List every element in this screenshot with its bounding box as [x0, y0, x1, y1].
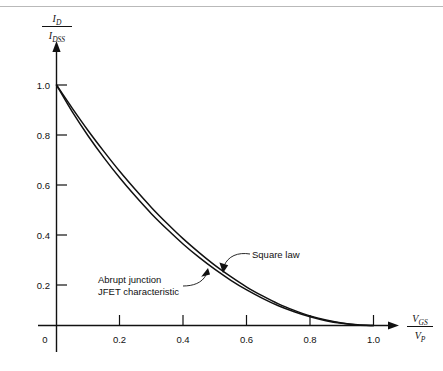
- square-law-label: Square law: [252, 249, 300, 260]
- x-tick-label-0.4: 0.4: [176, 334, 189, 345]
- chart-canvas: 1.0 0.8 0.6 0.4 0.2 0 0.2 0.4 0.6 0.8 1.…: [0, 0, 443, 371]
- square-law-arrowhead: [219, 263, 228, 273]
- square-law-leader-line: [224, 254, 250, 267]
- x-axis-label-numerator: VGS: [412, 313, 428, 327]
- y-tick-label-0.2: 0.2: [37, 280, 50, 291]
- annotation-square-law: Square law: [219, 249, 299, 273]
- y-axis-label-numerator: ID: [52, 13, 62, 27]
- x-tick-label-0.2: 0.2: [113, 334, 126, 345]
- x-tick-label-1.0: 1.0: [367, 334, 380, 345]
- x-axis-den-sub: P: [420, 335, 426, 344]
- y-axis-num-sub: D: [55, 18, 62, 27]
- x-tick-label-0: 0: [42, 334, 47, 345]
- y-axis-ticks: [57, 85, 67, 285]
- abrupt-junction-arrowhead: [201, 268, 210, 277]
- x-axis-arrowhead: [388, 321, 399, 329]
- x-axis-ticks: [120, 315, 374, 325]
- annotation-abrupt-junction: Abrupt junction JFET characteristic: [98, 268, 210, 297]
- x-tick-label-0.8: 0.8: [303, 334, 316, 345]
- y-axis-label-denominator: IDSS: [48, 30, 66, 44]
- x-axis-label: VGS VP: [407, 313, 433, 344]
- x-axis-num-sub: GS: [418, 318, 427, 327]
- x-axis-label-denominator: VP: [415, 330, 426, 344]
- y-axis-den-sub: DSS: [51, 35, 65, 44]
- y-tick-label-0.4: 0.4: [37, 230, 50, 241]
- abrupt-junction-label-line1: Abrupt junction: [98, 274, 161, 285]
- y-tick-label-0.8: 0.8: [37, 130, 50, 141]
- figure-container: 1.0 0.8 0.6 0.4 0.2 0 0.2 0.4 0.6 0.8 1.…: [0, 0, 443, 371]
- y-tick-label-0.6: 0.6: [37, 180, 50, 191]
- y-tick-label-1.0: 1.0: [37, 80, 50, 91]
- abrupt-junction-label-line2: JFET characteristic: [98, 286, 179, 297]
- abrupt-junction-leader-line: [183, 275, 206, 286]
- y-axis-label: ID IDSS: [42, 13, 72, 44]
- x-tick-label-0.6: 0.6: [240, 334, 253, 345]
